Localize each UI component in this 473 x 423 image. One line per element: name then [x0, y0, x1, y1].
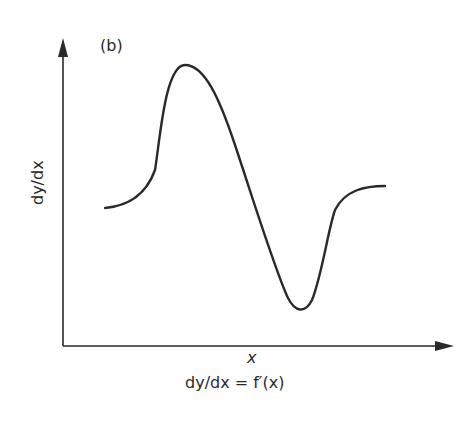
derivative-plot: [0, 0, 473, 423]
x-axis-arrow-icon: [435, 341, 454, 351]
y-axis-label: dy/dx: [28, 160, 47, 205]
x-axis-label: x: [247, 348, 256, 367]
derivative-curve: [105, 65, 385, 310]
caption: dy/dx = f′(x): [185, 373, 284, 392]
panel-label: (b): [100, 36, 123, 55]
y-axis-arrow-icon: [58, 38, 68, 57]
